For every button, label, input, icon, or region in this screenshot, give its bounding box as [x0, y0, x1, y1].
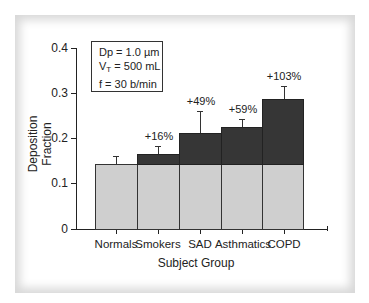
annotation-asthmatics: +59%	[218, 103, 268, 115]
legend-line-frequency: f = 30 b/min	[99, 77, 162, 91]
bar-sad-excess	[179, 133, 222, 165]
error-bar-cap	[281, 86, 287, 87]
error-bar	[158, 146, 159, 154]
bar-copd-excess	[262, 99, 304, 165]
error-bar	[284, 86, 285, 99]
y-axis-label: Deposition Fraction	[26, 94, 54, 194]
y-axis-line	[76, 48, 77, 230]
bar-smokers-base	[137, 164, 180, 230]
bar-copd-base	[262, 164, 304, 230]
bar-normals	[95, 164, 138, 230]
error-bar-cap	[113, 156, 119, 157]
error-bar-cap	[197, 111, 203, 112]
bar-asthmatics-base	[221, 164, 263, 230]
bar-smokers-excess	[137, 154, 180, 165]
bar-sad-base	[179, 164, 222, 230]
y-tick	[71, 138, 76, 139]
error-bar	[242, 119, 243, 127]
error-bar	[116, 156, 117, 164]
error-bar	[200, 111, 201, 133]
x-label-copd: COPD	[254, 238, 314, 250]
annotation-copd: +103%	[259, 70, 309, 82]
y-tick	[71, 183, 76, 184]
x-axis-label: Subject Group	[146, 256, 246, 270]
legend-vt-value: = 500 mL	[111, 60, 160, 72]
y-tick-label: 0.4	[44, 41, 68, 55]
error-bar-cap	[239, 119, 245, 120]
legend-box: Dp = 1.0 µm VT = 500 mL f = 30 b/min	[91, 41, 163, 92]
y-tick	[71, 93, 76, 94]
annotation-smokers: +16%	[134, 130, 184, 142]
bar-asthmatics-excess	[221, 127, 263, 165]
x-tick	[327, 226, 328, 231]
y-tick	[71, 48, 76, 49]
error-bar-cap	[155, 146, 161, 147]
y-tick-label: 0	[44, 222, 68, 236]
legend-line-tidal-volume: VT = 500 mL	[99, 59, 162, 77]
legend-line-particle-size: Dp = 1.0 µm	[99, 45, 162, 59]
